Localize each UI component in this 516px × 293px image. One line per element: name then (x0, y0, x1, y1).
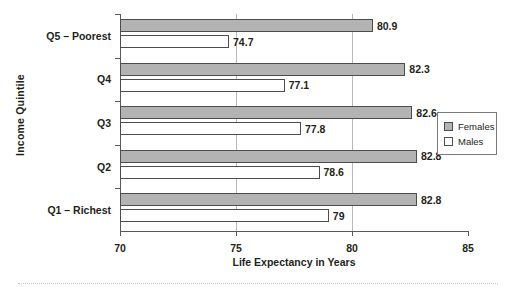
bar-males[interactable]: 78.6 (120, 166, 320, 179)
bar-group: Q482.377.1 (120, 58, 468, 102)
plot-area: 70758085 Q5 – Poorest80.974.7Q482.377.1Q… (120, 14, 468, 232)
category-label: Q1 – Richest (47, 204, 111, 216)
bar-value-label: 74.7 (233, 36, 253, 48)
bar-females[interactable]: 82.3 (120, 63, 405, 76)
bar-group: Q282.878.6 (120, 145, 468, 189)
chart-legend: Females Males (437, 112, 497, 155)
bar-chart: Income Quintile 70758085 Q5 – Poorest80.… (0, 0, 516, 293)
bar-value-label: 82.6 (416, 107, 436, 119)
category-label: Q2 (97, 161, 111, 173)
bar-females[interactable]: 82.8 (120, 193, 417, 206)
x-axis-title: Life Expectancy in Years (120, 256, 468, 268)
bar-males[interactable]: 77.8 (120, 122, 301, 135)
x-tick-label-85: 85 (462, 242, 474, 254)
bar-value-label: 82.3 (409, 63, 429, 75)
category-label: Q3 (97, 117, 111, 129)
bar-value-label: 77.8 (305, 123, 325, 135)
bar-group: Q382.677.8 (120, 101, 468, 145)
bar-males[interactable]: 74.7 (120, 35, 229, 48)
males-swatch-icon (444, 137, 453, 146)
bar-value-label: 79 (333, 210, 345, 222)
legend-label-females: Females (458, 121, 494, 132)
bar-value-label: 82.8 (421, 194, 441, 206)
footer-divider (18, 283, 498, 284)
category-label: Q5 – Poorest (46, 30, 111, 42)
legend-item-females[interactable]: Females (444, 119, 491, 133)
y-axis-title: Income Quintile (8, 0, 32, 230)
x-tick-label-75: 75 (230, 242, 242, 254)
females-swatch-icon (444, 122, 453, 131)
bar-value-label: 78.6 (324, 166, 344, 178)
bar-males[interactable]: 77.1 (120, 79, 285, 92)
bar-group: Q1 – Richest82.879 (120, 188, 468, 232)
x-tick-85 (468, 231, 469, 236)
x-tick-label-80: 80 (346, 242, 358, 254)
y-axis-title-label: Income Quintile (14, 74, 26, 156)
bar-group: Q5 – Poorest80.974.7 (120, 14, 468, 58)
bar-females[interactable]: 82.6 (120, 106, 412, 119)
bar-males[interactable]: 79 (120, 209, 329, 222)
x-tick-label-70: 70 (114, 242, 126, 254)
bar-females[interactable]: 80.9 (120, 19, 373, 32)
legend-label-males: Males (458, 136, 483, 147)
bar-females[interactable]: 82.8 (120, 150, 417, 163)
category-label: Q4 (97, 73, 111, 85)
bar-value-label: 80.9 (377, 20, 397, 32)
bar-value-label: 77.1 (289, 79, 309, 91)
legend-item-males[interactable]: Males (444, 134, 491, 148)
